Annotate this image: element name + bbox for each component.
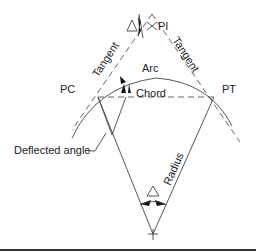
label-tangent-right: Tangent	[170, 35, 201, 74]
curve-diagram: PI PC PT Arc Chord Deflected angle Tange…	[0, 0, 256, 251]
label-arc: Arc	[142, 62, 159, 74]
radius-line-left	[98, 97, 153, 234]
radius-line-right	[153, 97, 214, 234]
label-pi: PI	[158, 20, 168, 32]
deflected-angle-leader	[88, 133, 106, 151]
deflection-line-right	[112, 97, 126, 135]
label-tangent-left: Tangent	[90, 40, 121, 79]
chord-angle-arrow-left-icon	[121, 84, 126, 93]
pi-delta-icon	[127, 20, 137, 31]
label-pc: PC	[60, 83, 75, 95]
label-deflected-angle: Deflected angle	[14, 144, 90, 156]
label-chord: Chord	[136, 87, 166, 99]
label-pt: PT	[222, 83, 236, 95]
tangent-angle-arrow-icon	[120, 76, 126, 84]
pi-angle-arrow-lower-icon	[138, 26, 141, 37]
chord-angle-arrow-right-icon	[128, 84, 131, 93]
tangent-line-right	[152, 14, 240, 142]
center-delta-icon	[147, 186, 159, 196]
deflection-line-left	[98, 97, 112, 135]
